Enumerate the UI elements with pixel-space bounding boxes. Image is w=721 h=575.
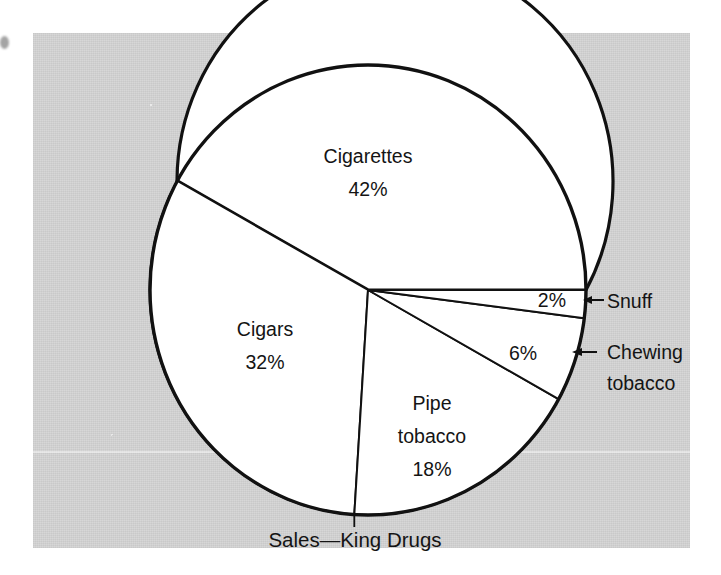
callout-label-chewing-tobacco-line1: Chewing — [607, 341, 683, 363]
slice-label-pipe-tobacco-line1: Pipe — [412, 392, 451, 414]
callout-label-snuff: Snuff — [607, 290, 653, 312]
slice-value-snuff: 2% — [538, 289, 566, 311]
pie-chart: Cigarettes 42% Cigars 32% Pipe tobacco 1… — [0, 0, 721, 575]
slice-value-cigarettes: 42% — [348, 178, 387, 200]
figure-caption: Sales—King Drugs — [268, 528, 441, 551]
slice-label-cigars: Cigars — [237, 318, 294, 340]
callout-label-chewing-tobacco-line2: tobacco — [607, 372, 675, 394]
slice-value-chewing-tobacco: 6% — [509, 342, 537, 364]
slice-value-pipe-tobacco: 18% — [412, 458, 451, 480]
slice-label-cigarettes: Cigarettes — [324, 145, 413, 167]
slice-value-cigars: 32% — [245, 351, 284, 373]
figure-page: Cigarettes 42% Cigars 32% Pipe tobacco 1… — [0, 0, 721, 575]
slice-label-pipe-tobacco-line2: tobacco — [398, 425, 466, 447]
